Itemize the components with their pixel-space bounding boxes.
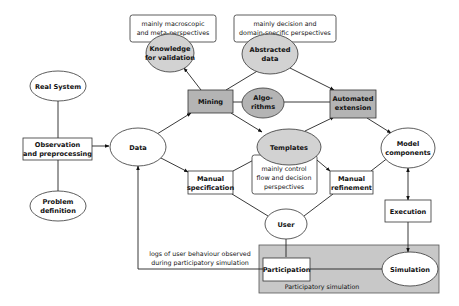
node-label: Data (129, 144, 147, 152)
note-line: mainly control (261, 165, 306, 173)
edge-abstracted-data-automated-extension (290, 68, 334, 90)
node-label: Model (397, 140, 420, 148)
node-label: Abstracted (250, 46, 291, 54)
note-line: logs of user behaviour observed (149, 250, 251, 258)
node-label: Simulation (390, 266, 430, 274)
node-label: Participation (263, 266, 311, 274)
node-label: specification (187, 184, 234, 192)
edge-automated-extension-model-components (367, 118, 391, 133)
node-automated-extension[interactable]: Automated extension (330, 90, 376, 118)
node-algorithms[interactable]: Algo- rithms (242, 88, 284, 118)
node-label: rithms (251, 103, 275, 111)
node-user[interactable]: User (265, 209, 307, 239)
node-real-system[interactable]: Real System (30, 71, 86, 101)
note-line: flow and decision (257, 174, 312, 181)
node-label: components (385, 149, 431, 157)
node-mining[interactable]: Mining (188, 90, 233, 113)
node-data[interactable]: Data (110, 128, 166, 166)
note-line: mainly macroscopic (142, 20, 205, 28)
edge-user-manual-refinement (304, 194, 333, 216)
node-label: Knowledge (149, 45, 191, 53)
node-label: Mining (198, 98, 223, 106)
node-manual-refinement[interactable]: Manual refinement (330, 171, 373, 194)
edge-data-manual-specification (159, 157, 188, 172)
note-line: mainly decision and (253, 20, 316, 28)
node-simulation[interactable]: Simulation (382, 252, 438, 286)
node-label: extension (335, 104, 372, 112)
edge-templates-automated-extension (305, 117, 334, 131)
node-label: Templates (270, 144, 308, 152)
node-execution[interactable]: Execution (385, 200, 431, 222)
node-label: definition (40, 207, 76, 215)
region-label: Participatory simulation (285, 283, 360, 291)
node-model-components[interactable]: Model components (381, 128, 435, 168)
node-participation[interactable]: Participation (263, 258, 311, 281)
node-label: data (262, 55, 279, 63)
node-label: and preprocessing (23, 150, 92, 158)
node-problem-definition[interactable]: Problem definition (30, 191, 86, 221)
note-line: domain-specific perspectives (239, 29, 331, 37)
node-label: User (277, 221, 295, 229)
node-label: Automated (332, 95, 373, 103)
node-manual-specification[interactable]: Manual specification (187, 171, 234, 194)
node-label: Real System (35, 83, 81, 91)
node-label: Algo- (253, 94, 273, 102)
node-label: Problem (43, 198, 74, 206)
node-label: Manual (197, 175, 224, 183)
node-observation[interactable]: Observation and preprocessing (23, 138, 92, 160)
edge-mining-knowledge (184, 68, 201, 90)
node-label: refinement (331, 184, 372, 192)
edge-data-mining (157, 113, 191, 134)
note-logs: logs of user behaviour observed during p… (149, 250, 251, 267)
node-knowledge[interactable]: Knowledge for validation (145, 34, 195, 72)
node-templates[interactable]: Templates (257, 129, 321, 165)
node-abstracted-data[interactable]: Abstracted data (242, 34, 298, 74)
note-line: during participatory simulation (151, 259, 249, 267)
note-line: perspectives (264, 183, 304, 191)
node-label: for validation (145, 54, 195, 62)
edge-user-manual-specification (232, 194, 268, 216)
node-label: Observation (35, 141, 81, 149)
node-label: Manual (338, 175, 365, 183)
process-diagram: Participatory simulation mainly macrosco… (0, 0, 459, 306)
node-label: Execution (390, 208, 427, 216)
